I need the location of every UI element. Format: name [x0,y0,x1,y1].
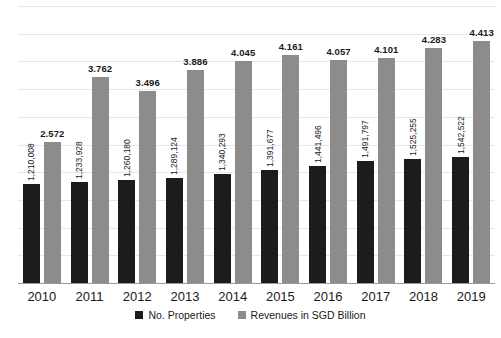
x-axis-tick-label: 2017 [352,286,400,308]
x-axis-labels: 2010201120122013201420152016201720182019 [18,286,495,308]
x-axis-tick-label: 2018 [400,286,448,308]
bar-value-label-revenue: 3.496 [136,77,160,88]
bar-revenue[interactable] [235,61,252,283]
bar-properties[interactable] [404,159,421,283]
bar-wrap-revenue: 4.045 [235,6,252,283]
bar-revenue[interactable] [330,60,347,283]
bar-wrap-revenue: 4.057 [330,6,347,283]
x-axis-tick-label: 2015 [257,286,305,308]
bar-properties[interactable] [261,170,278,283]
bar-value-label-revenue: 3.762 [88,63,112,74]
bar-group: 1,525,2554.283 [400,6,448,283]
bar-value-label-revenue: 2.572 [40,128,64,139]
legend-label: No. Properties [148,309,215,321]
bar-revenue[interactable] [187,70,204,283]
bar-wrap-revenue: 4.413 [473,6,490,283]
bar-groups: 1,210,0082.5721,233,9283.7621,260,1803.4… [18,6,495,283]
bar-revenue[interactable] [282,55,299,283]
bar-value-label-properties: 1,525,255 [408,118,418,156]
bar-value-label-revenue: 4.101 [374,44,398,55]
bar-properties[interactable] [23,184,40,283]
bar-wrap-revenue: 4.283 [425,6,442,283]
bar-wrap-properties: 1,260,180 [118,6,135,283]
bar-group: 1,260,1803.496 [113,6,161,283]
x-axis-tick-label: 2014 [209,286,257,308]
legend-item[interactable]: Revenues in SGD Billion [238,309,366,321]
legend-swatch-icon [238,311,246,319]
bar-value-label-properties: 1,233,928 [74,141,84,179]
x-axis-tick-label: 2012 [113,286,161,308]
bar-wrap-properties: 1,289,124 [166,6,183,283]
bar-wrap-revenue: 4.161 [282,6,299,283]
bar-revenue[interactable] [139,91,156,283]
bar-wrap-properties: 1,525,255 [404,6,421,283]
bar-wrap-properties: 1,441,496 [309,6,326,283]
bar-value-label-properties: 1,260,180 [122,139,132,177]
caption-remnant [40,330,340,338]
bar-wrap-revenue: 4.101 [378,6,395,283]
bar-wrap-revenue: 3.762 [92,6,109,283]
bar-wrap-properties: 1,210,008 [23,6,40,283]
bar-properties[interactable] [357,161,374,283]
bar-group: 1,542,5224.413 [447,6,495,283]
bar-properties[interactable] [214,174,231,283]
bar-value-label-properties: 1,441,496 [313,125,323,163]
bar-wrap-revenue: 3.496 [139,6,156,283]
bar-group: 1,233,9283.762 [66,6,114,283]
bar-value-label-properties: 1,210,008 [26,143,36,181]
bar-properties[interactable] [309,166,326,283]
bar-chart: 1,210,0082.5721,233,9283.7621,260,1803.4… [0,0,501,338]
bar-wrap-revenue: 2.572 [44,6,61,283]
bar-group: 1,491,7974.101 [352,6,400,283]
bar-wrap-revenue: 3.886 [187,6,204,283]
bar-wrap-properties: 1,542,522 [452,6,469,283]
bar-value-label-properties: 1,491,797 [360,120,370,158]
bar-revenue[interactable] [425,48,442,283]
legend-item[interactable]: No. Properties [135,309,215,321]
bar-value-label-properties: 1,542,522 [456,116,466,154]
bar-properties[interactable] [452,157,469,283]
x-axis-tick-label: 2016 [304,286,352,308]
chart-legend: No. PropertiesRevenues in SGD Billion [0,309,501,321]
bar-value-label-revenue: 4.283 [422,34,446,45]
bar-revenue[interactable] [44,142,61,283]
bar-properties[interactable] [71,182,88,283]
bar-revenue[interactable] [378,58,395,283]
bar-group: 1,441,4964.057 [304,6,352,283]
bar-value-label-properties: 1,340,293 [217,133,227,171]
x-axis-line [18,283,495,284]
bar-value-label-revenue: 4.161 [279,41,303,52]
bar-value-label-revenue: 4.057 [326,46,350,57]
bar-group: 1,210,0082.572 [18,6,66,283]
legend-label: Revenues in SGD Billion [251,309,366,321]
x-axis-tick-label: 2019 [447,286,495,308]
bar-value-label-properties: 1,391,677 [265,129,275,167]
bar-wrap-properties: 1,233,928 [71,6,88,283]
x-axis-tick-label: 2010 [18,286,66,308]
x-axis-tick-label: 2013 [161,286,209,308]
x-axis-tick-label: 2011 [66,286,114,308]
bar-value-label-properties: 1,289,124 [169,137,179,175]
bar-revenue[interactable] [92,77,109,283]
bar-value-label-revenue: 4.413 [470,27,494,38]
bar-group: 1,391,6774.161 [257,6,305,283]
bar-wrap-properties: 1,491,797 [357,6,374,283]
bar-wrap-properties: 1,340,293 [214,6,231,283]
bar-properties[interactable] [166,178,183,283]
bar-value-label-revenue: 3.886 [183,56,207,67]
legend-swatch-icon [135,311,143,319]
bar-wrap-properties: 1,391,677 [261,6,278,283]
bar-properties[interactable] [118,180,135,283]
bar-group: 1,289,1243.886 [161,6,209,283]
bar-value-label-revenue: 4.045 [231,47,255,58]
bar-group: 1,340,2934.045 [209,6,257,283]
bar-revenue[interactable] [473,41,490,283]
